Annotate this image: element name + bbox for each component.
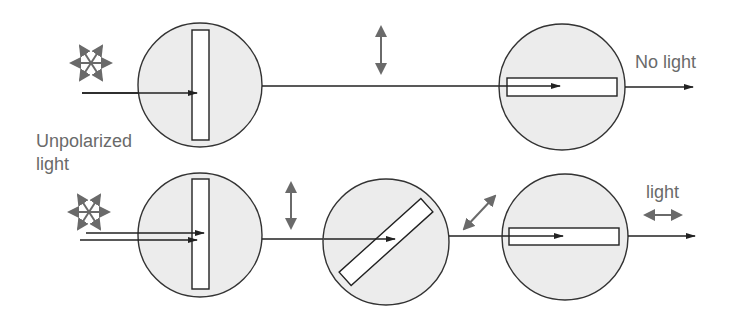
unpolarized-label-line2: light <box>36 154 69 174</box>
polarizer-horizontal <box>502 174 628 300</box>
polarizer-vertical <box>138 23 262 147</box>
light-label: light <box>646 182 679 202</box>
diagonal-polarization-arrow <box>464 196 495 229</box>
no-light-label: No light <box>635 52 696 72</box>
polarizer-vertical <box>138 173 262 297</box>
bottom-row: light <box>69 173 695 305</box>
top-row: No light <box>71 23 696 150</box>
unpolarized-light-icon <box>69 195 109 229</box>
polarizer-diagonal <box>323 179 449 305</box>
unpolarized-label-line1: Unpolarized <box>36 131 132 151</box>
polarization-diagram: No light Unpolarized light <box>0 0 732 311</box>
polarizer-horizontal <box>499 24 625 150</box>
unpolarized-light-icon <box>71 46 111 80</box>
